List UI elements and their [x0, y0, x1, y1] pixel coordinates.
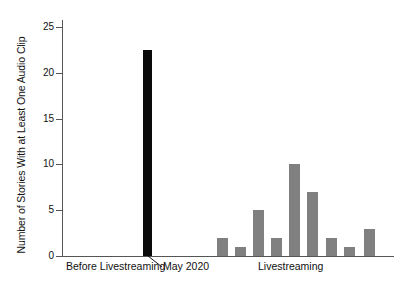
- y-axis-tick-label: 15: [18, 113, 54, 124]
- bar: [271, 238, 282, 256]
- bar: [253, 210, 264, 256]
- y-axis-tick-label: 10: [18, 158, 54, 169]
- y-axis-tick-label: 25: [18, 21, 54, 32]
- x-axis-group-label: May 2020: [163, 260, 209, 272]
- bar: [344, 247, 355, 256]
- y-axis-tick-label: 20: [18, 67, 54, 78]
- y-axis-tick-label: 0: [18, 250, 54, 261]
- bars-layer: [62, 18, 394, 256]
- x-axis-group-label: Livestreaming: [258, 260, 323, 272]
- bar: [326, 238, 337, 256]
- bar: [217, 238, 228, 256]
- y-axis-tick-label: 5: [18, 204, 54, 215]
- y-axis-tick-mark: [56, 256, 62, 257]
- bar: [289, 164, 300, 256]
- bar: [307, 192, 318, 256]
- x-axis-line: [62, 256, 394, 257]
- bar: [364, 229, 375, 256]
- bar-chart-figure: Number of Stories With at Least One Audi…: [0, 0, 403, 290]
- bar: [143, 50, 152, 256]
- x-axis-group-label: Before Livestreaming: [66, 260, 165, 272]
- y-axis-title: Number of Stories With at Least One Audi…: [10, 0, 32, 290]
- bar: [235, 247, 246, 256]
